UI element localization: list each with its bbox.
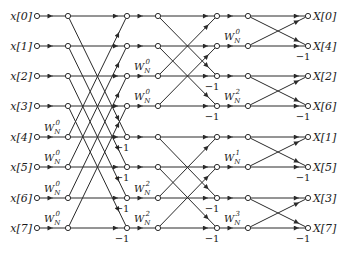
- output-label: X[4]: [312, 40, 337, 53]
- node: [34, 43, 39, 48]
- node: [214, 195, 219, 200]
- twiddle-factor: WN0: [134, 58, 151, 75]
- input-label: x[4]: [10, 131, 32, 144]
- node: [65, 134, 70, 139]
- input-label: x[0]: [10, 10, 32, 23]
- twiddle-factor: WN2: [134, 210, 151, 227]
- minus-one-label: −1: [296, 111, 311, 122]
- node: [34, 13, 39, 18]
- fft-flow-graph: x[0]x[1]x[2]x[3]x[4]x[5]x[6]x[7]X[0]X[4]…: [0, 0, 351, 263]
- node: [305, 13, 310, 18]
- node: [34, 164, 39, 169]
- twiddle-factor: WN0: [44, 180, 61, 197]
- node: [155, 73, 160, 78]
- node: [245, 43, 250, 48]
- output-label: X[5]: [312, 161, 337, 174]
- node: [155, 225, 160, 230]
- output-label: X[7]: [312, 222, 337, 235]
- twiddle-factor: WN0: [44, 210, 61, 227]
- node: [214, 164, 219, 169]
- node: [245, 164, 250, 169]
- node: [65, 43, 70, 48]
- node: [155, 134, 160, 139]
- node: [305, 195, 310, 200]
- node: [214, 225, 219, 230]
- twiddle-factor: WN1: [224, 149, 241, 166]
- node: [34, 103, 39, 108]
- node: [155, 43, 160, 48]
- node: [124, 103, 129, 108]
- node: [34, 225, 39, 230]
- twiddle-factor: WN0: [134, 88, 151, 105]
- node: [305, 73, 310, 78]
- node: [214, 73, 219, 78]
- node: [124, 13, 129, 18]
- node: [65, 13, 70, 18]
- output-label: X[6]: [312, 100, 337, 113]
- node: [155, 164, 160, 169]
- node: [305, 164, 310, 169]
- minus-one-label: −1: [115, 203, 130, 214]
- node: [65, 225, 70, 230]
- output-label: X[0]: [312, 10, 337, 23]
- node: [245, 13, 250, 18]
- node: [65, 103, 70, 108]
- twiddle-factor: WN2: [134, 180, 151, 197]
- minus-one-label: −1: [115, 142, 130, 153]
- node: [214, 13, 219, 18]
- node: [245, 103, 250, 108]
- node: [65, 73, 70, 78]
- node: [305, 103, 310, 108]
- node: [124, 73, 129, 78]
- node: [305, 134, 310, 139]
- minus-one-label: −1: [205, 111, 220, 122]
- minus-one-label: −1: [296, 172, 311, 183]
- node: [34, 134, 39, 139]
- node: [65, 195, 70, 200]
- minus-one-label: −1: [115, 172, 130, 183]
- node: [245, 134, 250, 139]
- input-label: x[3]: [10, 100, 32, 113]
- labels: x[0]x[1]x[2]x[3]x[4]x[5]x[6]x[7]X[0]X[4]…: [10, 10, 337, 244]
- minus-one-label: −1: [205, 233, 220, 244]
- node: [155, 13, 160, 18]
- node: [124, 225, 129, 230]
- node: [34, 73, 39, 78]
- input-label: x[7]: [10, 222, 32, 235]
- node: [124, 134, 129, 139]
- node: [124, 43, 129, 48]
- input-label: x[1]: [10, 40, 32, 53]
- node: [34, 195, 39, 200]
- minus-one-label: −1: [115, 233, 130, 244]
- minus-one-label: −1: [205, 81, 220, 92]
- output-label: X[1]: [312, 131, 337, 144]
- output-label: X[2]: [312, 70, 337, 83]
- node: [305, 225, 310, 230]
- node: [124, 164, 129, 169]
- node: [155, 103, 160, 108]
- node: [305, 43, 310, 48]
- twiddle-factor: WN0: [44, 149, 61, 166]
- minus-one-label: −1: [296, 233, 311, 244]
- input-label: x[6]: [10, 192, 32, 205]
- input-label: x[5]: [10, 161, 32, 174]
- twiddle-factor: WN0: [224, 28, 241, 45]
- twiddle-factor: WN0: [44, 119, 61, 136]
- node: [65, 164, 70, 169]
- minus-one-label: −1: [296, 51, 311, 62]
- node: [214, 43, 219, 48]
- node: [155, 195, 160, 200]
- output-label: X[3]: [312, 192, 337, 205]
- twiddle-factor: WN2: [224, 88, 241, 105]
- input-label: x[2]: [10, 70, 32, 83]
- node: [245, 225, 250, 230]
- node: [214, 134, 219, 139]
- node: [214, 103, 219, 108]
- edges: [40, 16, 306, 228]
- node: [124, 195, 129, 200]
- node: [245, 195, 250, 200]
- node: [245, 73, 250, 78]
- twiddle-factor: WN3: [224, 210, 241, 227]
- minus-one-label: −1: [205, 203, 220, 214]
